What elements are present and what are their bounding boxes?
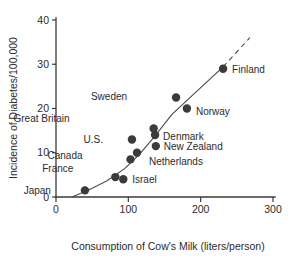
data-point-japan xyxy=(81,186,89,194)
data-point-u-s xyxy=(128,135,136,143)
data-point-israel xyxy=(119,175,127,183)
chart-canvas: 010203040 0100200300 Consumption of Cow'… xyxy=(0,0,291,257)
data-point-france xyxy=(111,173,119,181)
point-label-israel: Israel xyxy=(132,174,156,185)
data-point-netherlands xyxy=(133,149,141,157)
y-tick-label-30: 30 xyxy=(37,58,49,70)
x-tick-label-100: 100 xyxy=(120,203,138,215)
y-tick-label-20: 20 xyxy=(37,102,49,114)
trend-line-dashed-extrapolation xyxy=(223,38,250,67)
x-tick-label-200: 200 xyxy=(192,203,210,215)
data-point-denmark xyxy=(151,131,159,139)
data-point-canada xyxy=(126,155,134,163)
point-label-netherlands: Netherlands xyxy=(149,156,203,167)
x-axis-title: Consumption of Cow's Milk (liters/person… xyxy=(71,240,264,252)
data-point-norway xyxy=(183,104,191,112)
point-label-norway: Norway xyxy=(196,106,230,117)
data-point-new-zealand xyxy=(152,142,160,150)
x-tick-label-0: 0 xyxy=(53,203,59,215)
scatter-chart-figure: 010203040 0100200300 Consumption of Cow'… xyxy=(0,0,291,257)
axes-group xyxy=(52,18,275,202)
y-axis-tick-labels: 010203040 xyxy=(37,14,49,203)
point-label-new-zealand: New Zealand xyxy=(164,141,223,152)
x-tick-label-300: 300 xyxy=(264,203,282,215)
point-label-finland: Finland xyxy=(232,64,265,75)
x-axis-tick-labels: 0100200300 xyxy=(53,203,282,215)
data-point-finland xyxy=(219,64,227,72)
point-label-france: France xyxy=(42,163,74,174)
data-point-sweden xyxy=(172,93,180,101)
point-label-canada: Canada xyxy=(47,150,82,161)
point-label-u-s: U.S. xyxy=(83,134,102,145)
data-point-labels-group: JapanFranceIsraelCanadaU.S.NetherlandsGr… xyxy=(14,64,265,197)
trend-line-group xyxy=(72,38,250,197)
y-tick-label-40: 40 xyxy=(37,14,49,26)
y-axis-title: Incidence of Diabetes/100,000 xyxy=(7,37,19,179)
point-label-sweden: Sweden xyxy=(91,91,127,102)
point-label-japan: Japan xyxy=(24,185,51,196)
x-axis-ticks xyxy=(56,197,273,202)
point-label-great-britain: Great Britain xyxy=(14,113,70,124)
